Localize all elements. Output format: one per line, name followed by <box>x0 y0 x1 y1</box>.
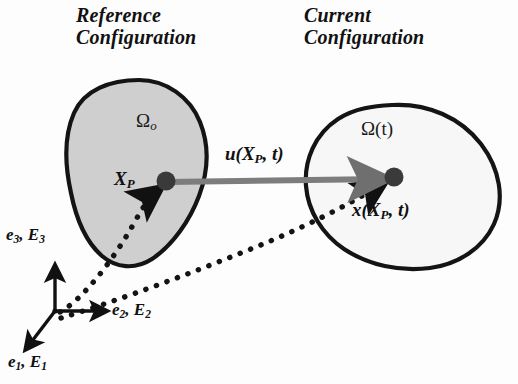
displacement-vector-label: u(XP, t) <box>225 143 284 164</box>
e2-cap: E <box>134 300 145 319</box>
xp-symbol: X <box>114 168 127 189</box>
reference-title-line2: Configuration <box>76 26 196 48</box>
current-title-line1: Current <box>304 4 424 26</box>
current-body-shape <box>306 105 500 269</box>
e2-base-subscript: 2 <box>120 308 126 321</box>
spatial-point-dot <box>385 168 404 187</box>
u-arg-subscript: P <box>255 151 263 166</box>
e3-separator: , <box>19 225 28 244</box>
reference-domain-label: Ωo <box>136 110 157 131</box>
material-point-label: XP <box>114 168 135 189</box>
current-domain-label: Ω(t) <box>361 118 393 139</box>
e3-base: e <box>6 225 14 244</box>
reference-title-line1: Reference <box>76 4 196 26</box>
x-arg-rest: , t) <box>388 199 409 220</box>
axis-label-e3: e3, E3 <box>6 225 45 244</box>
e1-cap-subscript: 1 <box>41 360 47 373</box>
x-symbol: x <box>352 199 362 220</box>
x-arg-subscript: P <box>381 207 389 222</box>
e3-cap: E <box>28 225 39 244</box>
reference-configuration-title: Reference Configuration <box>76 4 196 49</box>
e2-cap-subscript: 2 <box>145 308 151 321</box>
material-point-dot <box>157 172 176 191</box>
u-arg-symbol: X <box>242 143 255 164</box>
u-arg-rest: , t) <box>262 143 283 164</box>
displacement-vector-arrow <box>168 179 383 182</box>
e3-cap-subscript: 3 <box>39 233 45 246</box>
current-position-label: x(XP, t) <box>352 199 410 220</box>
omega-symbol: Ω <box>136 110 150 131</box>
axis-label-e2: e2, E2 <box>112 300 151 319</box>
e2-separator: , <box>125 300 134 319</box>
axes-origin-marker <box>52 308 57 313</box>
u-symbol: u <box>225 143 236 164</box>
x-arg-symbol: X <box>368 199 381 220</box>
e1-separator: , <box>21 352 30 371</box>
e1-base-subscript: 1 <box>16 360 22 373</box>
omega-subscript: o <box>150 118 156 133</box>
xp-subscript: P <box>127 176 135 191</box>
reference-body-shape <box>66 80 206 266</box>
e2-base: e <box>112 300 120 319</box>
e1-base: e <box>8 352 16 371</box>
axis-label-e1: e1, E1 <box>8 352 47 371</box>
axis-e1-line <box>26 311 55 349</box>
current-title-line2: Configuration <box>304 26 424 48</box>
figure-canvas <box>0 0 518 384</box>
continuum-configuration-figure: Reference Configuration Current Configur… <box>0 0 518 384</box>
current-configuration-title: Current Configuration <box>304 4 424 49</box>
e1-cap: E <box>30 352 41 371</box>
e3-base-subscript: 3 <box>14 233 20 246</box>
